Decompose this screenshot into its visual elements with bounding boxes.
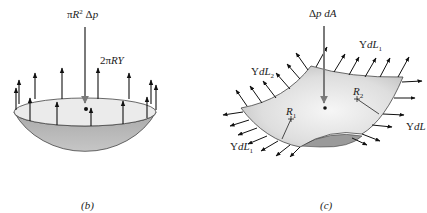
edge-label-top-right: YdL1	[359, 38, 383, 53]
edge-label-bottom-left: YdL1	[230, 140, 254, 155]
center-point-c	[323, 106, 327, 110]
curved-surface	[241, 66, 403, 147]
diagram-canvas: πR2 Δp 2πRY (b)	[0, 0, 427, 213]
edge-label-right: YdL	[406, 120, 426, 132]
caption-c: (c)	[320, 199, 333, 212]
figure-b-hemisphere: πR2 Δp 2πRY (b)	[14, 8, 156, 212]
center-point-b	[84, 107, 88, 111]
edge-label-top-left: YdL2	[251, 65, 275, 80]
figure-c-surface-element: Δp dA YdL1 YdL2 YdL YdL1 R1 R2 (c)	[223, 7, 426, 212]
load-label-c: Δp dA	[309, 7, 337, 19]
tension-label-b: 2πRY	[100, 54, 126, 66]
caption-b: (b)	[81, 199, 94, 212]
load-label-b: πR2 Δp	[67, 8, 99, 20]
